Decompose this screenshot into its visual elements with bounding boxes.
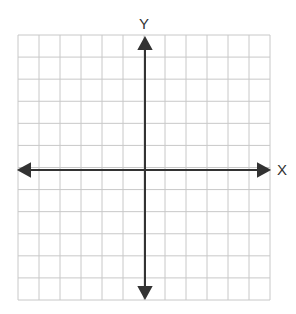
y-axis-label: Y — [139, 16, 149, 31]
x-axis-label: X — [277, 162, 287, 177]
x-axis-left-arrow-icon — [19, 164, 30, 176]
coordinate-plane — [0, 0, 296, 314]
y-axis-up-arrow-icon — [139, 38, 151, 49]
y-axis-down-arrow-icon — [139, 287, 151, 298]
x-axis-right-arrow-icon — [258, 164, 269, 176]
